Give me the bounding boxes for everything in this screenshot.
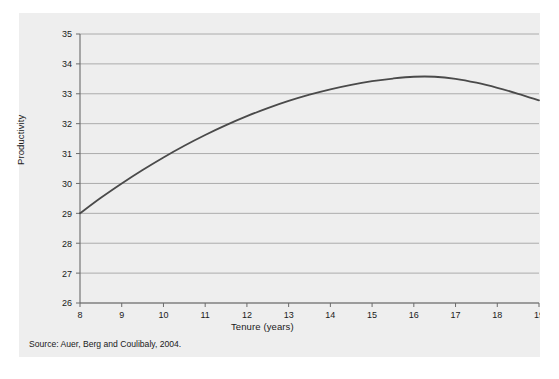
series-line-productivity bbox=[80, 76, 539, 213]
y-tick-label: 29 bbox=[62, 209, 72, 219]
x-tick-label: 17 bbox=[451, 310, 461, 320]
y-tick-label: 34 bbox=[62, 59, 72, 69]
x-tick-label: 18 bbox=[492, 310, 502, 320]
x-tick-label: 13 bbox=[284, 310, 294, 320]
source-note: Source: Auer, Berg and Coulibaly, 2004. bbox=[29, 339, 181, 349]
x-tick-label: 9 bbox=[119, 310, 124, 320]
y-tick-label: 26 bbox=[62, 298, 72, 308]
x-tick-label: 16 bbox=[409, 310, 419, 320]
x-tick-label: 15 bbox=[367, 310, 377, 320]
y-tick-label: 33 bbox=[62, 89, 72, 99]
y-axis-title: Productivity bbox=[15, 115, 26, 165]
y-tick-label: 35 bbox=[62, 29, 72, 39]
y-tick-label: 30 bbox=[62, 179, 72, 189]
figure-panel: 2627282930313233343589101112131415161718… bbox=[19, 13, 540, 357]
y-tick-label: 27 bbox=[62, 269, 72, 279]
y-tick-label: 28 bbox=[62, 239, 72, 249]
y-tick-label: 31 bbox=[62, 149, 72, 159]
x-tick-label: 10 bbox=[158, 310, 168, 320]
productivity-tenure-line-chart: 2627282930313233343589101112131415161718… bbox=[19, 13, 540, 357]
x-tick-label: 12 bbox=[242, 310, 252, 320]
x-tick-label: 19 bbox=[534, 310, 540, 320]
x-tick-label: 8 bbox=[77, 310, 82, 320]
x-axis-title: Tenure (years) bbox=[231, 321, 294, 332]
x-tick-label: 14 bbox=[325, 310, 335, 320]
x-tick-label: 11 bbox=[201, 310, 210, 320]
chart-plot-area: 2627282930313233343589101112131415161718… bbox=[19, 13, 540, 357]
y-tick-label: 32 bbox=[62, 119, 72, 129]
